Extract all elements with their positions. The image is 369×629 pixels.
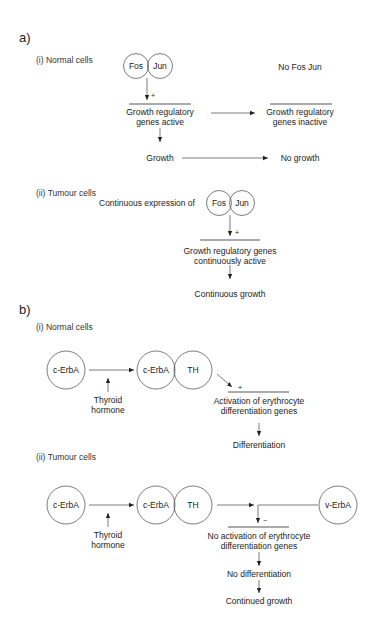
c-erba-label: c-ErbA [53,365,79,375]
thyroid-label-tumour: Thyroid [94,530,122,540]
th-label: TH [187,365,198,375]
tumour-cells-heading: (ii) Tumour cells [36,188,96,198]
c-erba-label-tumour: c-ErbA [53,500,79,510]
genes-active-line2: genes active [136,117,184,127]
minus-sign: − [263,516,267,526]
section-b-label: b) [19,302,31,317]
jun-label-tumour: Jun [235,198,249,208]
no-fos-jun-label: No Fos Jun [278,62,321,72]
genes-inactive-line1: Growth regulatory [266,107,334,117]
differentiation-label: Differentiation [233,440,285,450]
diagram-lines [0,0,369,629]
v-erba-label: v-ErbA [325,500,351,510]
continuously-active-line1: Growth regulatory genes [183,246,276,256]
genes-inactive-line2: genes inactive [273,117,327,127]
continuous-expression-label: Continuous expression of [99,198,195,208]
plus-sign-b: + [238,383,242,393]
continuous-growth-label: Continuous growth [195,289,266,299]
th-label-tumour: TH [187,500,198,510]
tumour-cells-heading-b: (ii) Tumour cells [36,452,96,462]
continuously-active-line2: continuously active [194,256,266,266]
hormone-label-tumour: hormone [91,540,125,550]
fos-label-tumour: Fos [212,198,226,208]
section-a-label: a) [19,30,31,45]
genes-active-line1: Growth regulatory [126,107,194,117]
thyroid-label: Thyroid [94,395,122,405]
normal-cells-heading: (i) Normal cells [36,55,93,65]
activation-line2: differentiation genes [221,406,297,416]
normal-cells-heading-b: (i) Normal cells [36,322,93,332]
plus-sign-tumour: + [235,228,239,238]
c-erba-bound-label-tumour: c-ErbA [143,500,169,510]
no-growth-label: No growth [281,153,320,163]
fos-label: Fos [129,61,143,71]
activation-line1: Activation of erythrocyte [214,396,305,406]
jun-label: Jun [153,61,167,71]
plus-sign: + [151,91,155,101]
no-activation-line2: differentiation genes [221,541,297,551]
no-activation-line1: No activation of erythrocyte [208,531,311,541]
no-differentiation-label: No differentiation [227,569,291,579]
growth-label: Growth [146,153,173,163]
continued-growth-label: Continued growth [226,596,293,606]
c-erba-bound-label: c-ErbA [143,365,169,375]
hormone-label: hormone [91,405,125,415]
